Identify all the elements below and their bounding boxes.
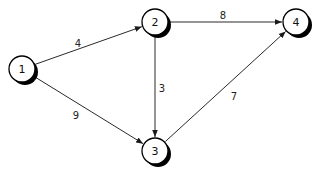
node-label: 2 bbox=[152, 16, 159, 29]
edge-weight-label-1-2: 4 bbox=[75, 38, 81, 49]
node-label: 1 bbox=[19, 63, 26, 76]
node-1: 1 bbox=[9, 56, 38, 85]
node-3: 3 bbox=[142, 138, 171, 167]
node-label: 4 bbox=[293, 16, 300, 29]
graph-diagram: 49837 1234 bbox=[0, 0, 320, 171]
edge-weight-label-3-4: 7 bbox=[231, 91, 237, 102]
edge-weight-label-2-4: 8 bbox=[220, 10, 226, 21]
node-4: 4 bbox=[283, 9, 312, 38]
edge-1-3 bbox=[34, 76, 143, 143]
edge-weight-label-1-3: 9 bbox=[73, 110, 79, 121]
node-2: 2 bbox=[142, 9, 171, 38]
node-label: 3 bbox=[152, 145, 159, 158]
edge-1-2 bbox=[35, 27, 142, 65]
edge-weight-label-2-3: 3 bbox=[159, 83, 165, 94]
edge-3-4 bbox=[165, 31, 285, 141]
